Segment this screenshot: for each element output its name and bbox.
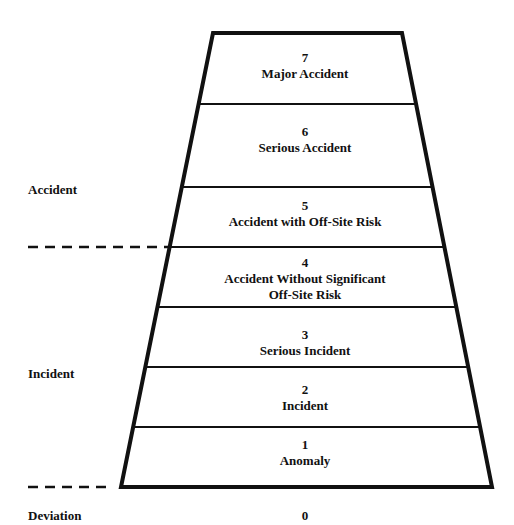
level-4-name-line2: Off-Site Risk (170, 287, 440, 303)
category-incident: Incident (28, 366, 74, 382)
level-4-name: Accident Without Significant (170, 271, 440, 287)
level-1-name: Anomaly (140, 453, 470, 469)
level-3: 3 Serious Incident (160, 327, 450, 359)
level-7-number: 7 (200, 50, 410, 66)
level-2-number: 2 (150, 382, 460, 398)
level-6: 6 Serious Accident (190, 124, 420, 156)
category-deviation: Deviation (28, 508, 81, 524)
level-6-name: Serious Accident (190, 140, 420, 156)
level-5-name: Accident with Off-Site Risk (180, 214, 430, 230)
level-5-number: 5 (180, 198, 430, 214)
level-3-name: Serious Incident (160, 343, 450, 359)
level-6-number: 6 (190, 124, 420, 140)
level-0-number: 0 (240, 508, 370, 524)
level-4-number: 4 (170, 255, 440, 271)
level-7-name: Major Accident (200, 66, 410, 82)
level-5: 5 Accident with Off-Site Risk (180, 198, 430, 230)
level-2: 2 Incident (150, 382, 460, 414)
level-1-number: 1 (140, 437, 470, 453)
level-7: 7 Major Accident (200, 50, 410, 82)
level-4: 4 Accident Without Significant Off-Site … (170, 255, 440, 303)
level-3-number: 3 (160, 327, 450, 343)
level-2-name: Incident (150, 398, 460, 414)
category-accident: Accident (28, 182, 77, 198)
level-1: 1 Anomaly (140, 437, 470, 469)
